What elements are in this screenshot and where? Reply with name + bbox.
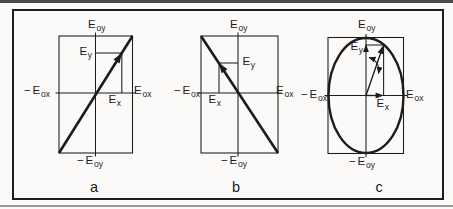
polarization-figure: Eoy −Eoy −Eox Eox Ey Ex a Eoy −Eoy −Eox … — [0, 0, 453, 209]
c-caption: c — [375, 180, 382, 195]
b-label-eox-pos: Eox — [275, 85, 294, 97]
b-label-ex: Ex — [207, 94, 221, 106]
a-label-eox-neg: −Eox — [24, 85, 50, 97]
b-label-ey: Ey — [241, 56, 255, 68]
c-label-eoy-pos: Eoy — [357, 19, 376, 31]
panel-c — [325, 34, 408, 157]
c-label-eoy-neg: −Eoy — [349, 156, 375, 168]
c-label-eox-pos: Eox — [405, 89, 424, 101]
b-caption: b — [232, 180, 240, 195]
a-label-eox-pos: Eox — [133, 85, 152, 97]
a-label-eoy-neg: −Eoy — [77, 155, 103, 167]
c-field-vector — [366, 48, 383, 96]
a-label-ey: Ey — [78, 46, 92, 58]
a-label-eoy-pos: Eoy — [87, 19, 106, 31]
a-label-ex: Ex — [107, 94, 121, 106]
a-caption: a — [90, 180, 98, 195]
panel-a — [56, 33, 137, 157]
c-label-ey: Ey — [349, 41, 363, 53]
b-label-eoy-pos: Eoy — [229, 19, 248, 31]
c-label-eox-neg: −Eox — [301, 89, 327, 101]
b-label-eox-neg: −Eox — [174, 85, 200, 97]
b-label-eoy-neg: −Eoy — [221, 155, 247, 167]
c-label-ex: Ex — [375, 98, 389, 110]
